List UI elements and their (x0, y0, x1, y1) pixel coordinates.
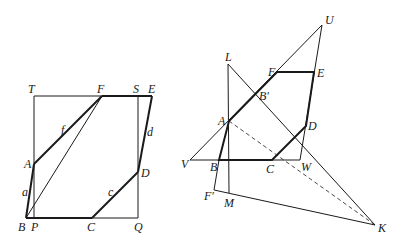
label-P: P (30, 220, 39, 234)
label-B-prime: B′ (259, 89, 269, 103)
label-E: E (147, 82, 156, 96)
label-U: U (325, 13, 335, 27)
label-D: D (140, 166, 150, 180)
label-side-d: d (147, 125, 154, 139)
label-M: M (223, 196, 235, 210)
segment-bf (26, 96, 102, 218)
label-B: B (210, 160, 218, 174)
label-F-prime: F′ (203, 189, 214, 203)
label-W: W (301, 160, 312, 174)
label-F: F (267, 65, 276, 79)
side-f (34, 96, 102, 164)
label-C: C (266, 162, 275, 176)
label-side-c: c (108, 185, 114, 199)
square-tsqp (34, 96, 138, 218)
label-L: L (224, 50, 232, 64)
hexagon-abcdef (219, 72, 314, 160)
label-T: T (28, 82, 36, 96)
label-F: F (96, 82, 105, 96)
label-side-f: f (61, 123, 66, 137)
label-V: V (181, 157, 190, 171)
label-K: K (377, 221, 387, 235)
label-A: A (23, 157, 32, 171)
segment-lk (228, 64, 375, 225)
label-C: C (87, 220, 96, 234)
label-E: E (316, 66, 325, 80)
label-Q: Q (134, 220, 143, 234)
label-B: B (18, 220, 26, 234)
right-figure: U L F E B′ A D V B C W F′ M K (181, 13, 387, 235)
label-side-a: a (22, 185, 28, 199)
label-S: S (133, 82, 139, 96)
geometry-diagram: T F S E A D B P C Q f a d c U L F E B′ A (0, 0, 402, 247)
side-c (92, 172, 138, 218)
left-figure: T F S E A D B P C Q f a d c (18, 82, 156, 234)
label-D: D (307, 119, 317, 133)
segment-lm (228, 64, 229, 193)
label-A: A (217, 114, 226, 128)
